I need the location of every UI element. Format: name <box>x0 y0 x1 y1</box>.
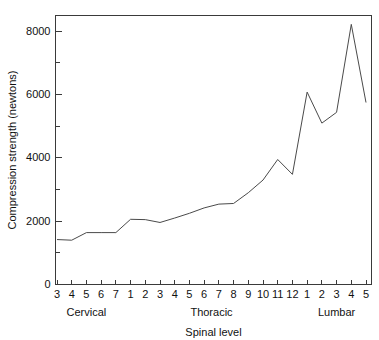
x-tick-label: 3 <box>54 288 60 300</box>
x-tick-label: 5 <box>186 288 192 300</box>
x-tick-label: 10 <box>257 288 269 300</box>
x-tick-label: 6 <box>98 288 104 300</box>
x-tick-label: 3 <box>157 288 163 300</box>
y-tick-label: 2000 <box>26 215 50 227</box>
x-tick-label: 9 <box>245 288 251 300</box>
y-axis-tick-labels: 02000400060008000 <box>26 25 50 290</box>
x-tick-label: 4 <box>348 288 354 300</box>
spinal-region-label: Thoracic <box>190 306 233 318</box>
y-tick-label: 8000 <box>26 25 50 37</box>
plot-border <box>56 16 372 285</box>
x-tick-label: 2 <box>142 288 148 300</box>
plot-frame <box>56 16 372 285</box>
spinal-region-label: Cervical <box>67 306 107 318</box>
compression-strength-line-chart: 02000400060008000 3456712345678910111212… <box>0 0 379 340</box>
x-tick-label: 6 <box>201 288 207 300</box>
compression-strength-series <box>57 24 366 240</box>
x-tick-label: 2 <box>319 288 325 300</box>
y-axis-title: Compression strength (newtons) <box>6 71 18 230</box>
x-tick-label: 5 <box>363 288 369 300</box>
y-tick-label: 0 <box>44 278 50 290</box>
x-axis-ticks <box>57 280 366 285</box>
x-tick-label: 3 <box>334 288 340 300</box>
y-axis-ticks <box>56 31 62 284</box>
spinal-region-labels: CervicalThoracicLumbar <box>67 306 356 318</box>
x-axis-tick-labels: 3456712345678910111212345 <box>54 288 369 300</box>
chart-figure: 02000400060008000 3456712345678910111212… <box>0 0 379 340</box>
x-tick-label: 4 <box>172 288 178 300</box>
x-tick-label: 1 <box>128 288 134 300</box>
x-tick-label: 5 <box>83 288 89 300</box>
x-tick-label: 7 <box>216 288 222 300</box>
spinal-region-label: Lumbar <box>318 306 356 318</box>
x-tick-label: 7 <box>113 288 119 300</box>
x-tick-label: 12 <box>286 288 298 300</box>
y-tick-label: 6000 <box>26 88 50 100</box>
x-tick-label: 8 <box>231 288 237 300</box>
x-tick-label: 11 <box>272 288 283 300</box>
x-tick-label: 4 <box>69 288 75 300</box>
y-tick-label: 4000 <box>26 151 50 163</box>
x-tick-label: 1 <box>304 288 310 300</box>
x-axis-title: Spinal level <box>185 326 241 338</box>
